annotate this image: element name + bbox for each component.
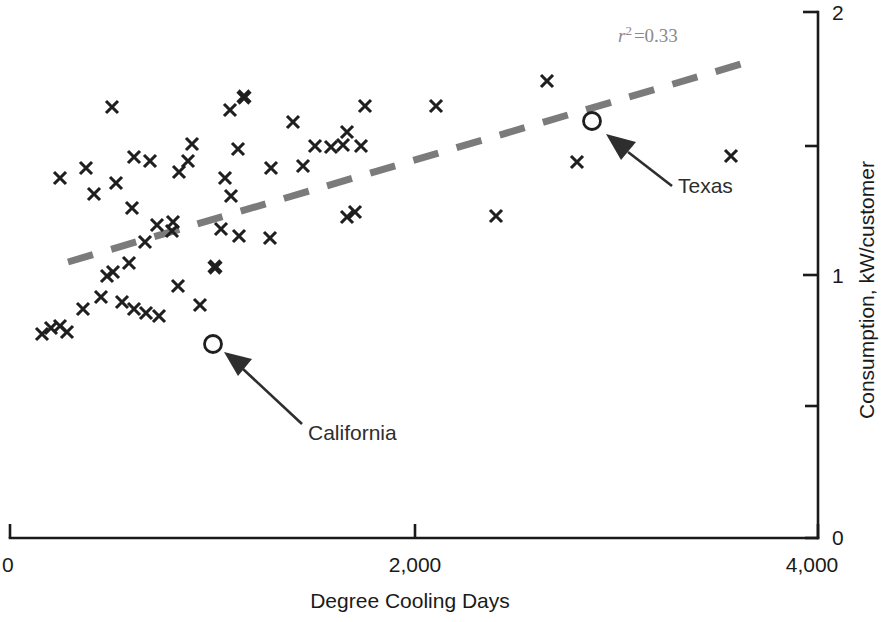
texas-arrow-shaft — [628, 152, 672, 186]
x-tick-labels: 0 2,000 4,000 — [2, 553, 838, 576]
texas-label: Texas — [678, 174, 733, 197]
scatter-markers — [36, 75, 737, 340]
marker-x — [106, 101, 118, 113]
marker-x — [172, 280, 184, 292]
marker-x — [355, 140, 367, 152]
california-arrow-shaft — [243, 369, 302, 424]
marker-x — [490, 210, 502, 222]
marker-x — [359, 100, 371, 112]
marker-x marker-x-bold — [238, 91, 250, 103]
y-tick-label-0: 0 — [832, 526, 844, 549]
marker-x — [219, 172, 231, 184]
marker-x — [116, 296, 128, 308]
marker-x — [101, 270, 113, 282]
marker-x — [80, 162, 92, 174]
marker-x — [224, 104, 236, 116]
x-tick-label-4000: 4,000 — [786, 553, 839, 576]
r-squared-value: =0.33 — [634, 25, 678, 46]
marker-x — [54, 172, 66, 184]
marker-x — [126, 202, 138, 214]
marker-x — [233, 230, 245, 242]
marker-x — [430, 100, 442, 112]
marker-x — [232, 143, 244, 155]
marker-x — [123, 257, 135, 269]
x-axis-ticks — [10, 524, 818, 538]
marker-x — [173, 166, 185, 178]
y-axis-title: Consumption, kW/customer — [855, 161, 878, 419]
marker-x — [309, 140, 321, 152]
marker-x — [95, 291, 107, 303]
marker-circle-california — [205, 336, 222, 353]
marker-x — [153, 310, 165, 322]
marker-x — [151, 219, 163, 231]
marker-x — [77, 303, 89, 315]
marker-x — [88, 188, 100, 200]
marker-x — [144, 155, 156, 167]
marker-x — [225, 190, 237, 202]
scatter-chart: 0 2,000 4,000 0 1 2 Degree Cooling Days … — [0, 0, 886, 622]
marker-x — [61, 326, 73, 338]
marker-x — [194, 299, 206, 311]
x-tick-label-2000: 2,000 — [389, 553, 442, 576]
marker-x — [341, 126, 353, 138]
y-axis-ticks — [803, 12, 818, 538]
marker-x — [139, 236, 151, 248]
marker-x — [541, 75, 553, 87]
y-tick-label-2: 2 — [832, 1, 844, 24]
marker-x — [725, 150, 737, 162]
r-squared-label: r2=0.33 — [618, 23, 678, 46]
marker-x — [215, 223, 227, 235]
marker-x — [140, 307, 152, 319]
california-label: California — [308, 421, 397, 444]
marker-x — [128, 303, 140, 315]
marker-x — [287, 116, 299, 128]
marker-circle-texas — [584, 113, 601, 130]
california-arrow — [224, 352, 302, 424]
y-tick-label-1: 1 — [832, 264, 844, 287]
marker-x — [110, 177, 122, 189]
r-squared-exponent: 2 — [625, 23, 632, 38]
marker-x — [337, 139, 349, 151]
x-tick-label-0: 0 — [2, 553, 14, 576]
marker-x — [186, 138, 198, 150]
marker-x — [571, 156, 583, 168]
marker-x — [297, 160, 309, 172]
marker-x — [265, 162, 277, 174]
x-axis-title: Degree Cooling Days — [310, 589, 510, 612]
y-tick-labels: 0 1 2 — [832, 1, 844, 549]
axes-group — [10, 12, 818, 538]
chart-canvas: 0 2,000 4,000 0 1 2 Degree Cooling Days … — [0, 0, 886, 622]
texas-arrow — [606, 134, 672, 186]
marker-x — [325, 141, 337, 153]
marker-x marker-x-bold — [209, 261, 221, 273]
marker-x — [264, 232, 276, 244]
marker-x — [128, 151, 140, 163]
